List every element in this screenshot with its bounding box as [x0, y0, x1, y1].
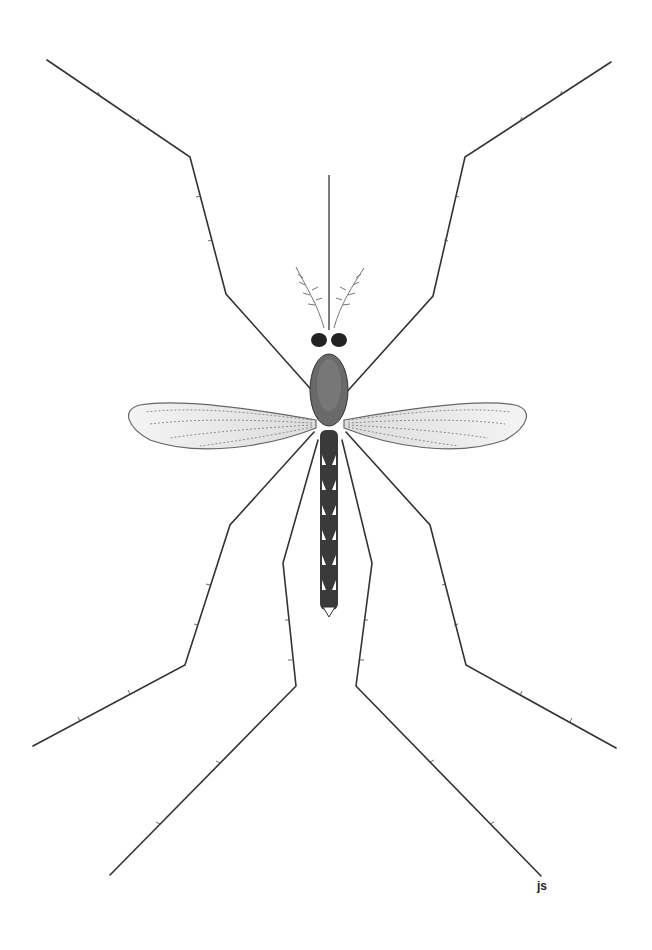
leg-mid-left	[33, 432, 314, 746]
antennae	[296, 267, 364, 328]
leg-hind-right	[342, 440, 541, 876]
mosquito-illustration: js	[0, 0, 652, 950]
leg-hind-left	[110, 440, 318, 875]
abdomen	[320, 430, 338, 617]
eye-right	[331, 333, 347, 347]
head-appendages	[296, 175, 364, 347]
artist-signature: js	[537, 879, 547, 893]
eye-left	[311, 333, 327, 347]
leg-front-left	[47, 60, 316, 395]
wing-left	[129, 403, 316, 449]
wing-right	[344, 403, 526, 449]
leg-front-right	[344, 62, 611, 395]
leg-mid-right	[346, 432, 616, 748]
